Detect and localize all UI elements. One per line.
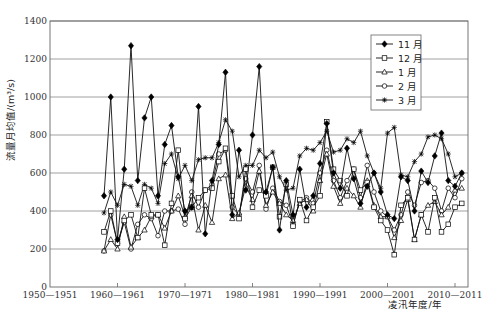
y-tick-label: 600 [30,168,47,178]
y-tick-label: 400 [30,206,47,216]
x-tick-label: 1960—1961 [90,290,145,300]
x-tick-label: 1980—1981 [225,290,280,300]
x-tick-label: 1950—1951 [23,290,78,300]
line-chart: 02004006008001000120014001950—19511960—1… [0,0,501,329]
legend-item-label: 2 月 [398,81,417,92]
y-tick-label: 800 [30,130,47,140]
x-tick-label: 1990—1991 [293,290,348,300]
y-tick-label: 1000 [24,92,47,102]
y-tick-label: 1200 [24,54,47,64]
legend-item-label: 12 月 [398,53,423,64]
legend-item-label: 3 月 [398,95,417,106]
y-tick-label: 1400 [24,16,47,26]
legend-item-label: 11 月 [398,39,423,50]
y-axis-title: 流量月均值/(m³/s) [5,79,16,161]
legend-item-label: 1 月 [398,67,417,78]
legend: 11 月12 月1 月2 月3 月 [371,35,423,110]
x-axis-title: 凌汛年度/年 [388,299,441,310]
y-tick-label: 200 [30,244,47,254]
x-tick-label: 1970—1971 [158,290,213,300]
